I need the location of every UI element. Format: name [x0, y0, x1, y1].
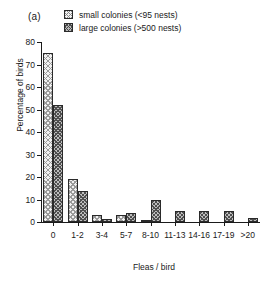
- x-tick-mark: [126, 222, 127, 226]
- chart-figure: (a) small colonies (<95 nests) large col…: [0, 0, 274, 281]
- x-tick-label: 11-13: [164, 230, 185, 240]
- x-tick-mark: [224, 222, 225, 226]
- x-tick-label: 5-7: [120, 230, 132, 240]
- y-tick-mark: [37, 200, 41, 201]
- bar-large-14-16: [199, 211, 209, 222]
- bar-small-5-7: [116, 215, 126, 222]
- y-tick-mark: [37, 65, 41, 66]
- bar-small-1-2: [68, 179, 78, 222]
- x-tick-label: >20: [241, 230, 255, 240]
- y-axis-label: Percentage of birds: [15, 30, 25, 160]
- x-tick-label: 17-19: [213, 230, 235, 240]
- y-tick-mark: [37, 155, 41, 156]
- bar-small-3-4: [92, 215, 102, 222]
- legend-swatch-dark-icon: [64, 23, 73, 32]
- panel-label: (a): [28, 11, 41, 22]
- bar-large-11-13: [175, 211, 185, 222]
- bar-large->20: [248, 218, 258, 223]
- chart-legend: small colonies (<95 nests) large colonie…: [64, 9, 181, 35]
- y-tick-mark: [37, 132, 41, 133]
- bar-large-3-4: [102, 219, 112, 222]
- y-tick-label: 80: [26, 37, 35, 47]
- legend-swatch-light-icon: [64, 10, 73, 19]
- y-tick-mark: [37, 110, 41, 111]
- y-tick-label: 0: [30, 217, 35, 227]
- y-tick-label: 70: [26, 60, 35, 70]
- x-tick-mark: [78, 222, 79, 226]
- x-tick-mark: [175, 222, 176, 226]
- x-tick-mark: [53, 222, 54, 226]
- x-tick-label: 3-4: [96, 230, 108, 240]
- x-tick-label: 1-2: [71, 230, 83, 240]
- y-tick-label: 30: [26, 150, 35, 160]
- bar-large-17-19: [224, 211, 234, 222]
- legend-label-large-colonies: large colonies (>500 nests): [79, 23, 181, 33]
- bar-large-5-7: [126, 213, 136, 222]
- bar-small-8-10: [141, 220, 151, 222]
- x-tick-label: 8-10: [142, 230, 159, 240]
- bar-large-8-10: [151, 200, 161, 223]
- y-axis-line: [41, 42, 42, 222]
- x-tick-label: 0: [51, 230, 56, 240]
- y-tick-label: 10: [26, 195, 35, 205]
- bar-small-0: [43, 53, 53, 222]
- plot-area: 01020304050607080 01-23-45-78-1011-1314-…: [41, 42, 260, 222]
- x-tick-mark: [199, 222, 200, 226]
- x-tick-mark: [151, 222, 152, 226]
- y-tick-mark: [37, 87, 41, 88]
- legend-item-small-colonies: small colonies (<95 nests): [64, 9, 181, 20]
- y-tick-mark: [37, 222, 41, 223]
- y-tick-label: 20: [26, 172, 35, 182]
- x-axis-label: Fleas / bird: [40, 262, 268, 272]
- bar-large-0: [53, 105, 63, 222]
- y-tick-mark: [37, 42, 41, 43]
- y-tick-label: 60: [26, 82, 35, 92]
- y-tick-mark: [37, 177, 41, 178]
- bar-large-1-2: [78, 191, 88, 223]
- legend-item-large-colonies: large colonies (>500 nests): [64, 22, 181, 33]
- legend-label-small-colonies: small colonies (<95 nests): [79, 10, 178, 20]
- y-tick-label: 40: [26, 127, 35, 137]
- y-tick-label: 50: [26, 105, 35, 115]
- x-tick-mark: [102, 222, 103, 226]
- x-tick-label: 14-16: [188, 230, 210, 240]
- x-tick-mark: [248, 222, 249, 226]
